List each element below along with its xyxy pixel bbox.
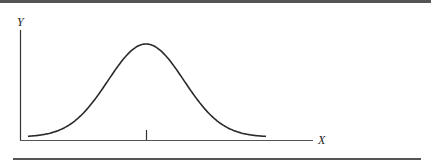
x-axis-label: X	[317, 133, 326, 147]
top-rule	[0, 0, 431, 3]
bell-curve-diagram: Y X	[0, 0, 431, 164]
y-axis-label: Y	[17, 15, 25, 29]
bottom-rule	[13, 158, 421, 160]
bell-curve	[28, 44, 266, 136]
